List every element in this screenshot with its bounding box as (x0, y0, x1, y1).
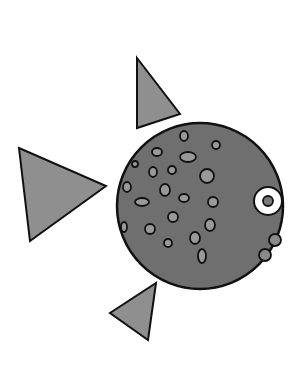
body-spot (145, 224, 155, 234)
body-spot (190, 232, 200, 244)
body-spot (180, 131, 188, 141)
eye-pupil (263, 196, 273, 206)
fish-eye-icon (254, 187, 282, 215)
body-spot (200, 169, 214, 183)
body-spot (168, 212, 178, 222)
body-spot (132, 161, 138, 167)
body-spot (198, 249, 206, 263)
fish-illustration (0, 0, 305, 366)
body-spot (152, 148, 162, 156)
body-spot (164, 239, 172, 247)
body-spot (168, 166, 176, 174)
body-spot (123, 182, 131, 192)
body-spot (180, 152, 196, 162)
body-spot (160, 184, 170, 196)
body-spot (212, 141, 220, 149)
body-spot (121, 222, 127, 232)
bubble (259, 249, 271, 261)
body-spot (149, 167, 157, 177)
body-spot (135, 198, 149, 206)
body-spot (208, 197, 218, 207)
bubble (269, 234, 281, 246)
body-spot (179, 194, 189, 202)
body-spot (205, 219, 215, 231)
